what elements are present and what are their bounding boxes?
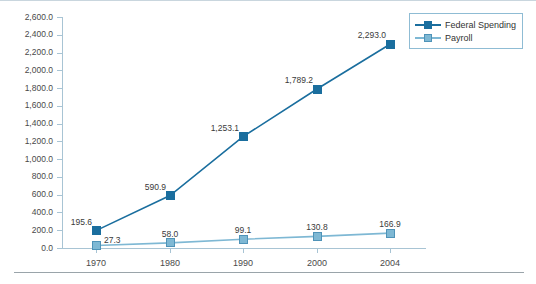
data-point-marker	[166, 238, 175, 247]
legend-marker-payroll-icon	[415, 32, 441, 43]
data-point-label: 1,789.2	[275, 75, 313, 85]
legend-label-federal-spending: Federal Spending	[445, 20, 516, 30]
data-point-label: 99.1	[223, 225, 263, 235]
legend-marker-federal-spending-icon	[415, 19, 441, 30]
data-point-label: 1,253.1	[201, 123, 239, 133]
data-point-marker	[92, 241, 101, 250]
data-point-label: 27.3	[104, 235, 121, 245]
legend-label-payroll: Payroll	[445, 33, 473, 43]
data-point-label: 590.9	[128, 182, 166, 192]
legend-item-payroll: Payroll	[415, 31, 517, 44]
data-point-label: 2,293.0	[348, 30, 386, 40]
data-point-label: 195.6	[54, 217, 92, 227]
data-point-marker	[239, 235, 248, 244]
data-point-marker	[386, 229, 395, 238]
data-point-label: 130.8	[297, 222, 337, 232]
data-point-marker	[313, 85, 322, 94]
legend-item-federal-spending: Federal Spending	[415, 18, 517, 31]
data-point-marker	[239, 132, 248, 141]
chart-legend: Federal Spending Payroll	[409, 13, 523, 49]
data-point-label: 58.0	[150, 229, 190, 239]
data-point-marker	[166, 191, 175, 200]
data-point-label: 166.9	[370, 219, 410, 229]
data-point-marker	[92, 226, 101, 235]
data-point-marker	[313, 232, 322, 241]
chart-figure: 2,600.02,400.02,200.02,000.01,800.01,600…	[0, 0, 536, 284]
data-point-marker	[386, 40, 395, 49]
